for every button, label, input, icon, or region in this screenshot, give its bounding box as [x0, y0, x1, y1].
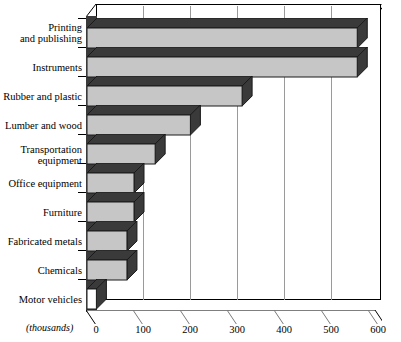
- axis-tick: [78, 47, 86, 48]
- plot-area: [86, 4, 386, 320]
- bar: [87, 47, 367, 67]
- category-label: Printing and publishing: [20, 22, 82, 44]
- axis-tick: [78, 105, 86, 106]
- bar-series: [86, 4, 386, 320]
- axis-tick-label: 0: [93, 324, 98, 335]
- bar: [87, 163, 144, 183]
- category-axis-labels: Printing and publishing Instruments Rubb…: [0, 0, 86, 316]
- axis-tick: [78, 221, 86, 222]
- axis-tick-label: 600: [370, 324, 386, 335]
- bar: [87, 192, 144, 212]
- category-label: Furniture: [43, 207, 82, 218]
- value-axis-labels: 0 100 200 300 400 500 600: [86, 318, 386, 342]
- bar: [87, 76, 252, 96]
- axis-tick: [78, 163, 86, 164]
- category-label: Chemicals: [38, 265, 82, 276]
- axis-tick-label: 300: [229, 324, 245, 335]
- bar: [87, 250, 137, 270]
- axis-tick: [78, 279, 86, 280]
- units-note: (thousands): [26, 322, 73, 333]
- axis-tick: [78, 76, 86, 77]
- axis-tick-label: 400: [276, 324, 292, 335]
- category-label: Instruments: [32, 62, 82, 73]
- bar: [87, 105, 200, 125]
- category-label: Transportation equipment: [21, 144, 82, 166]
- axis-tick-label: 100: [135, 324, 151, 335]
- axis-tick: [78, 250, 86, 251]
- bar: [87, 134, 165, 154]
- bar: [87, 221, 137, 241]
- bar-chart: Printing and publishing Instruments Rubb…: [0, 0, 401, 342]
- bar: [87, 18, 367, 38]
- category-label: Fabricated metals: [8, 236, 82, 247]
- axis-tick-label: 500: [323, 324, 339, 335]
- category-label: Office equipment: [8, 178, 82, 189]
- axis-tick: [78, 18, 86, 19]
- category-label: Rubber and plastic: [3, 91, 82, 102]
- axis-tick: [78, 192, 86, 193]
- bar: [87, 279, 106, 299]
- axis-tick-label: 200: [182, 324, 198, 335]
- category-label: Motor vehicles: [19, 294, 82, 305]
- category-label: Lumber and wood: [5, 120, 82, 131]
- axis-tick: [78, 134, 86, 135]
